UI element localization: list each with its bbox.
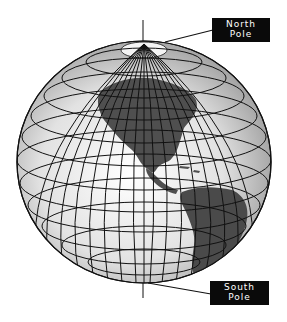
north-pole-label: North Pole bbox=[212, 18, 270, 42]
globe-diagram bbox=[0, 0, 287, 322]
globe-sphere bbox=[17, 41, 271, 283]
south-pole-leader-line bbox=[148, 283, 211, 294]
south-pole-label-line1: South bbox=[212, 282, 267, 292]
north-pole-leader-line bbox=[165, 30, 213, 42]
south-pole-label: South Pole bbox=[210, 281, 269, 305]
north-pole-label-line2: Pole bbox=[214, 29, 268, 39]
south-pole-label-line2: Pole bbox=[212, 292, 267, 302]
north-pole-label-line1: North bbox=[214, 19, 268, 29]
